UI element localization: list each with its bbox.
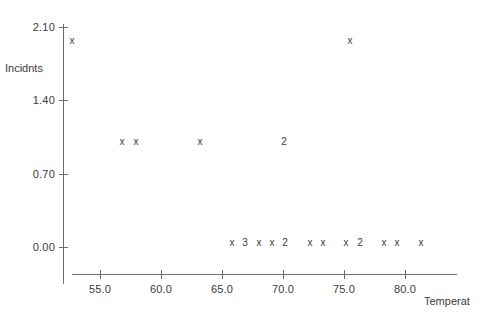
- x-tick-mark: [344, 270, 345, 279]
- y-axis-line: [63, 24, 64, 284]
- x-tick-label: 65.0: [199, 283, 245, 295]
- y-tick-mark: [59, 247, 68, 248]
- data-point-marker: x: [340, 238, 352, 248]
- x-axis-title: Temperat: [424, 295, 470, 307]
- plot-area: [0, 0, 480, 314]
- y-tick-label: 0.00: [17, 241, 55, 253]
- y-tick-label-wrap: 2.10: [0, 21, 55, 33]
- y-tick-label-wrap: 0.70: [0, 168, 55, 180]
- scatter-plot: 2.101.400.700.00 55.060.065.070.075.080.…: [0, 0, 480, 314]
- data-point-marker: x: [391, 238, 403, 248]
- y-tick-label-wrap: 1.40: [0, 94, 55, 106]
- y-tick-mark: [59, 174, 68, 175]
- x-tick-label: 60.0: [138, 283, 184, 295]
- data-point-marker: x: [378, 238, 390, 248]
- data-point-marker: x: [344, 36, 356, 46]
- data-point-marker: x: [304, 238, 316, 248]
- data-point-marker: x: [317, 238, 329, 248]
- y-tick-label-wrap: 0.00: [0, 241, 55, 253]
- data-point-marker: x: [66, 36, 78, 46]
- data-point-marker: x: [226, 238, 238, 248]
- data-point-marker: x: [130, 137, 142, 147]
- x-tick-mark: [222, 270, 223, 279]
- data-point-cluster: 2: [279, 238, 291, 248]
- x-tick-mark: [405, 270, 406, 279]
- y-tick-mark: [59, 100, 68, 101]
- data-point-marker: x: [415, 238, 427, 248]
- x-axis-line: [72, 274, 457, 275]
- y-tick-label: 1.40: [17, 94, 55, 106]
- x-tick-label: 75.0: [321, 283, 367, 295]
- y-tick-label: 0.70: [17, 168, 55, 180]
- data-point-cluster: 2: [278, 137, 290, 147]
- y-axis-title: Incidnts: [5, 62, 43, 74]
- data-point-marker: x: [194, 137, 206, 147]
- y-tick-mark: [59, 27, 68, 28]
- data-point-cluster: 3: [239, 238, 251, 248]
- data-point-marker: x: [266, 238, 278, 248]
- data-point-marker: x: [253, 238, 265, 248]
- x-tick-label: 80.0: [382, 283, 428, 295]
- x-tick-label: 55.0: [77, 283, 123, 295]
- x-tick-mark: [100, 270, 101, 279]
- x-tick-mark: [161, 270, 162, 279]
- x-tick-mark: [283, 270, 284, 279]
- y-tick-label: 2.10: [17, 21, 55, 33]
- x-tick-label: 70.0: [260, 283, 306, 295]
- data-point-marker: x: [116, 137, 128, 147]
- data-point-cluster: 2: [354, 238, 366, 248]
